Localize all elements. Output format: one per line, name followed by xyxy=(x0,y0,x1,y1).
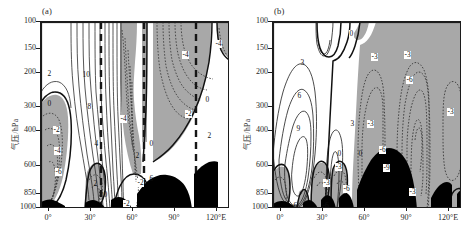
contour-label-b: -3 xyxy=(447,108,454,116)
y-tick-850-a: 850 xyxy=(2,189,36,197)
y-tick-1000-a: 1000 xyxy=(2,203,36,211)
contour-label-a: 8 xyxy=(87,103,92,111)
x-tick-30-a: 30° xyxy=(76,214,104,222)
contour-label-b: -3 xyxy=(367,120,374,128)
y-tick-600-b: 600 xyxy=(234,161,268,169)
contour-label-a: -4 xyxy=(54,147,61,155)
contour-label-b: -3 xyxy=(371,53,378,61)
y-axis-label-b: 气压/hPa xyxy=(241,119,252,150)
contour-label-b: 0 xyxy=(358,150,363,158)
y-tick-300-a: 300 xyxy=(2,102,36,110)
contour-label-a: -2 xyxy=(185,110,192,118)
x-tick-120-b: 120°E xyxy=(430,214,464,222)
contour-label-b: -6 xyxy=(343,185,350,193)
y-tick-100-a: 100 xyxy=(2,17,36,25)
contour-plot-a xyxy=(41,22,229,208)
y-tick-850-b: 850 xyxy=(234,189,268,197)
x-tick-60-a: 60° xyxy=(118,214,146,222)
contour-label-b: 9 xyxy=(296,125,301,133)
contour-label-b: 0 xyxy=(349,30,354,38)
contour-label-a: 2 xyxy=(207,132,212,140)
contour-label-b: -6 xyxy=(406,76,413,84)
panel-b: (b) 气压/hPa 100 150 200 300 400 600 850 1… xyxy=(232,0,464,238)
contour-label-b: -6 xyxy=(322,202,329,208)
plot-area-b: 0 3 6 9 6 3 0 0 -3 -6 -3 -6 -3 -3 -6 -3 … xyxy=(272,21,461,208)
contour-label-b: -3 xyxy=(323,179,330,187)
y-tick-1000-b: 1000 xyxy=(234,203,268,211)
contour-label-b: 6 xyxy=(293,202,298,208)
x-tick-90-b: 90° xyxy=(392,214,420,222)
contour-label-b: 0 xyxy=(337,150,342,158)
contour-label-a: 4 xyxy=(94,140,99,148)
x-tick-60-b: 60° xyxy=(350,214,378,222)
contour-label-a: -6 xyxy=(55,168,62,176)
x-tick-0-a: 0° xyxy=(34,214,62,222)
contour-label-b: 6 xyxy=(297,92,302,100)
contour-label-a: 0 xyxy=(149,140,154,148)
y-tick-150-a: 150 xyxy=(2,44,36,52)
contour-label-a: 6 xyxy=(149,175,154,183)
panel-a-tag: (a) xyxy=(42,6,52,16)
contour-label-a: 0 xyxy=(47,100,52,108)
contour-label-a: 0 xyxy=(205,96,210,104)
y-tick-600-a: 600 xyxy=(2,161,36,169)
contour-label-b: 3 xyxy=(350,120,355,128)
contour-label-a: -4 xyxy=(120,115,127,123)
plot-area-a: 2 0 -2 -4 -6 10 8 4 2 0 -4 -2 2 -2 0 6 -… xyxy=(40,21,229,208)
y-tick-200-a: 200 xyxy=(2,68,36,76)
contour-label-a: -2 xyxy=(137,179,144,187)
contour-label-b: 3 xyxy=(300,59,305,67)
contour-label-b: -9 xyxy=(383,164,390,172)
contour-label-b: -3 xyxy=(335,163,342,171)
figure-root: (a) 气压/hPa 100 150 200 300 400 600 850 1… xyxy=(0,0,464,238)
contour-label-b: -3 xyxy=(409,188,416,196)
contour-plot-b xyxy=(273,22,461,208)
x-tick-0-b: 0° xyxy=(266,214,294,222)
y-tick-300-b: 300 xyxy=(234,102,268,110)
contour-label-a: 2 xyxy=(47,70,52,78)
contour-label-a: -4 xyxy=(215,40,222,48)
panel-a: (a) 气压/hPa 100 150 200 300 400 600 850 1… xyxy=(0,0,232,238)
y-tick-200-b: 200 xyxy=(234,68,268,76)
x-tick-90-a: 90° xyxy=(160,214,188,222)
x-tick-120-a: 120°E xyxy=(198,214,234,222)
contour-label-a: 2 xyxy=(135,152,140,160)
contour-label-a: 10 xyxy=(82,71,91,79)
y-tick-150-b: 150 xyxy=(234,44,268,52)
contour-label-a: 0 xyxy=(103,191,108,199)
y-tick-400-b: 400 xyxy=(234,126,268,134)
y-tick-100-b: 100 xyxy=(234,17,268,25)
contour-label-b: -6 xyxy=(379,146,386,154)
y-tick-400-a: 400 xyxy=(2,126,36,134)
panel-b-tag: (b) xyxy=(274,6,285,16)
contour-label-a: -4 xyxy=(182,51,189,59)
x-tick-30-b: 30° xyxy=(308,214,336,222)
contour-label-a: 2 xyxy=(93,180,98,188)
contour-label-a: -2 xyxy=(123,200,130,208)
contour-label-b: -3 xyxy=(404,51,411,59)
contour-label-a: -2 xyxy=(53,126,60,134)
y-axis-label-a: 气压/hPa xyxy=(9,119,20,150)
